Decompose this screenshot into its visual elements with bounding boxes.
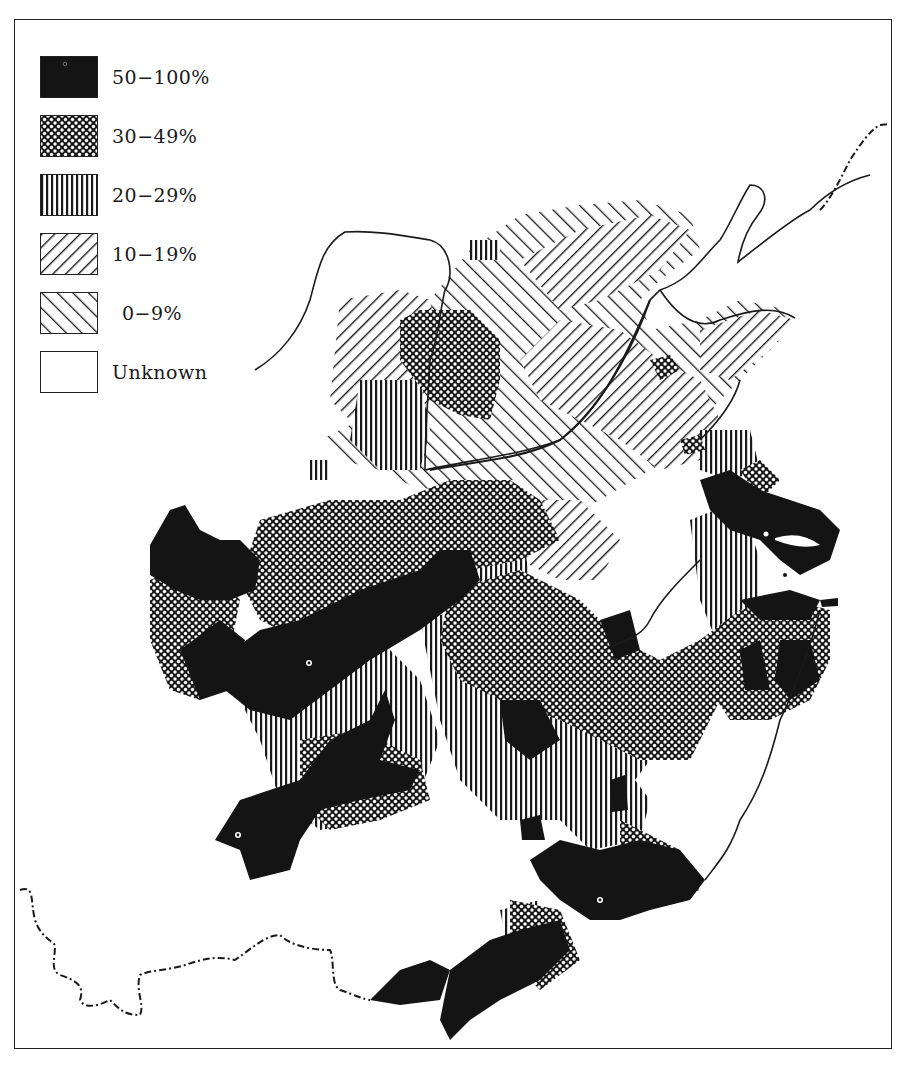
legend-label: 0−9% (122, 302, 182, 324)
swatch-blank-icon (40, 351, 98, 393)
legend-item-10-19: 10−19% (40, 224, 210, 283)
swatch-vertical-lines-icon (40, 174, 98, 216)
swatch-crosshatch-icon (40, 115, 98, 157)
legend-label: 10−19% (112, 243, 197, 265)
legend-item-50-100: 50−100% (40, 47, 210, 106)
swatch-solid-black-icon (40, 56, 98, 98)
legend-label: 30−49% (112, 125, 197, 147)
legend-label: 50−100% (112, 66, 210, 88)
legend-item-0-9: 0−9% (40, 283, 210, 342)
swatch-forward-diagonal-icon (40, 292, 98, 334)
legend-item-30-49: 30−49% (40, 106, 210, 165)
legend-item-unknown: Unknown (40, 342, 210, 401)
legend-label: Unknown (112, 361, 207, 383)
swatch-back-diagonal-icon (40, 233, 98, 275)
international-border-south (20, 889, 370, 1015)
legend-item-20-29: 20−29% (40, 165, 210, 224)
map-legend: 50−100% 30−49% 20−29% 10−19% 0−9% Unknow… (40, 47, 210, 401)
international-border-northeast (820, 124, 890, 210)
legend-label: 20−29% (112, 184, 197, 206)
